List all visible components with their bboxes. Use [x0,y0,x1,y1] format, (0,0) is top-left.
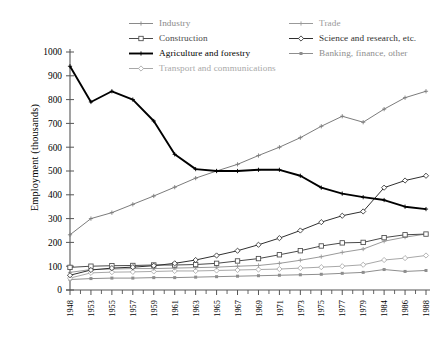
chart-figure: IndustryConstructionAgriculture and fore… [0,0,436,339]
series-transport-and-communications [67,253,428,281]
x-axis-tick-label: 1957 [129,300,138,317]
x-axis-tick-label: 1963 [192,300,201,317]
series-line [70,270,426,280]
x-axis-tick-label: 1975 [317,300,326,317]
y-axis-tick-label: 200 [48,238,62,248]
x-axis-tick-label: 1986 [401,300,410,317]
x-axis-tick-label: 1969 [255,300,264,317]
x-axis-tick-label: 1953 [87,300,96,317]
series-line [70,66,426,209]
x-axis-tick-label: 1959 [150,300,159,317]
y-axis-tick-label: 300 [48,214,62,224]
y-axis-tick-label: 700 [48,119,62,129]
y-axis-tick-label: 600 [48,143,62,153]
y-axis-tick-label: 0 [57,285,62,295]
y-axis-tick-label: 100 [48,262,62,272]
x-axis-tick-label: 1988 [422,300,431,317]
series-line [70,91,426,235]
plot-area: 0100200300400500600700800900100019481953… [0,0,436,339]
x-axis-tick-label: 1984 [380,299,389,317]
series-construction [68,232,428,270]
x-axis-tick-label: 1961 [171,300,180,317]
x-axis-tick-label: 1971 [276,300,285,317]
y-axis-tick-label: 900 [48,71,62,81]
y-axis-tick-label: 500 [48,166,62,176]
series-industry [68,89,428,237]
series-line [70,176,426,275]
y-axis-tick-label: 1000 [43,47,62,57]
series-line [70,255,426,278]
x-axis-tick-label: 1948 [66,300,75,317]
x-axis-tick-label: 1973 [297,300,306,317]
series-agriculture-and-forestry [68,64,428,211]
y-axis-tick-label: 800 [48,95,62,105]
x-axis-tick-label: 1955 [108,300,117,317]
x-axis-tick-label: 1967 [234,300,243,317]
x-axis-tick-label: 1979 [359,300,368,317]
x-axis-tick-label: 1965 [213,300,222,317]
y-axis-tick-label: 400 [48,190,62,200]
x-axis-tick-label: 1977 [338,300,347,317]
